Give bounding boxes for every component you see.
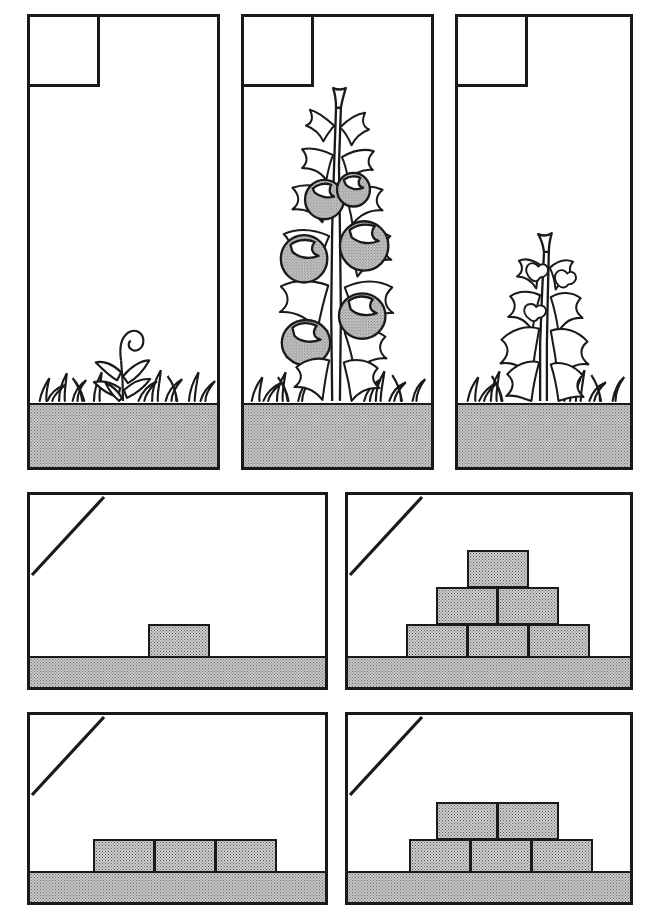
block[interactable]	[436, 587, 498, 625]
plant-panel-flowering[interactable]	[455, 14, 633, 470]
tomato-plant-illustration	[244, 17, 431, 467]
soil-ground	[348, 871, 630, 902]
soil-ground	[348, 656, 630, 687]
block[interactable]	[497, 587, 559, 625]
worksheet-page	[0, 0, 657, 923]
blocks-panel-three-in-row[interactable]	[27, 712, 328, 905]
blocks-panel-five-blocks[interactable]	[345, 712, 633, 905]
block[interactable]	[467, 550, 529, 588]
soil-ground	[30, 656, 325, 687]
block[interactable]	[497, 802, 559, 840]
soil-ground	[30, 403, 217, 467]
blocks-panel-one-block[interactable]	[27, 492, 328, 690]
soil-ground	[244, 403, 431, 467]
blocks-panel-six-block-pyramid[interactable]	[345, 492, 633, 690]
flowering-plant-illustration	[458, 17, 630, 467]
soil-ground	[30, 871, 325, 902]
plant-panel-seedling[interactable]	[27, 14, 220, 470]
block[interactable]	[436, 802, 498, 840]
seedling-illustration	[30, 17, 217, 467]
soil-ground	[458, 403, 630, 467]
plant-panel-mature-tomato[interactable]	[241, 14, 434, 470]
